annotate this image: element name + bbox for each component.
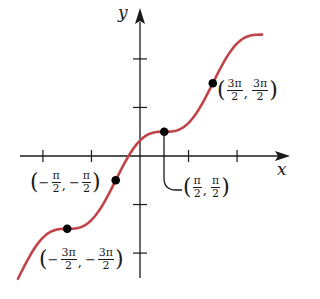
x-axis-label: x — [277, 161, 287, 178]
marked-point — [63, 225, 72, 234]
axes — [20, 8, 290, 278]
y-axis-label: y — [118, 4, 128, 21]
y-axis-arrow-icon — [135, 8, 145, 24]
marked-point — [209, 79, 218, 88]
leader-line-pi-over-2 — [164, 131, 182, 190]
marked-point — [111, 176, 120, 185]
point-label-3pi-over-2: ( 3π2 , 3π2 ) — [217, 78, 278, 102]
point-label-neg-3pi-over-2: ( − 3π2 , − 3π2 ) — [39, 247, 124, 271]
point-label-neg-pi-over-2: ( − π2 , − π2 ) — [30, 170, 101, 194]
point-label-pi-over-2: ( π2 , π2 ) — [183, 175, 230, 199]
